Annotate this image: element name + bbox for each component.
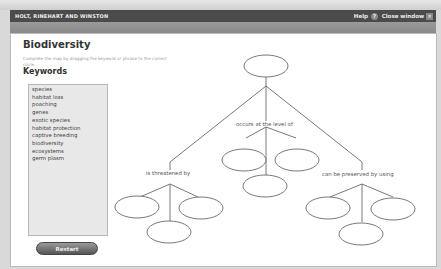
drop-target-threat-1 — [115, 196, 159, 218]
link-label-right: can be preserved by using — [322, 171, 394, 177]
drop-target-level-3 — [243, 175, 287, 197]
link-label-center: occurs at the level of — [236, 121, 293, 127]
drop-target-threat-2 — [179, 197, 223, 219]
drop-target-preserve-3 — [339, 223, 383, 245]
concept-map — [0, 0, 441, 269]
link-label-left: is threatened by — [146, 170, 190, 176]
drop-target-root — [244, 55, 288, 77]
drop-target-preserve-1 — [306, 197, 350, 219]
drop-target-preserve-2 — [371, 198, 415, 220]
drop-target-level-1 — [222, 149, 266, 171]
drop-target-threat-3 — [147, 221, 191, 243]
drop-target-level-2 — [275, 149, 319, 171]
